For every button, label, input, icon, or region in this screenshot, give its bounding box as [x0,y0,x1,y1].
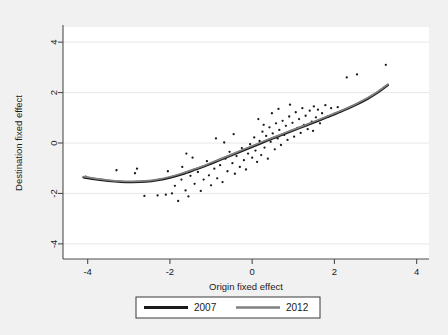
data-point [288,115,290,117]
data-point [134,172,136,174]
data-point [239,166,241,168]
data-point [263,146,265,148]
legend-label-2012: 2012 [286,302,309,313]
data-point [309,110,311,112]
data-point [234,173,236,175]
data-point [319,122,321,124]
data-point [300,132,302,134]
data-point [247,152,249,154]
data-point [171,192,173,194]
data-point [256,161,258,163]
data-point [312,130,314,132]
data-point [317,109,319,111]
data-point [301,107,303,109]
data-point [193,183,195,185]
data-point [385,64,387,66]
data-point [156,194,158,196]
x-tick-label: 0 [250,266,255,277]
data-point [346,76,348,78]
y-tick-label: -2 [48,189,59,197]
data-point [226,170,228,172]
data-point [274,148,276,150]
data-point [219,164,221,166]
data-point [245,168,247,170]
data-point [143,195,145,197]
data-point [177,200,179,202]
data-point [231,162,233,164]
x-tick-label: 4 [414,266,419,277]
y-axis-title: Destination fixed effect [13,95,24,191]
data-point [278,129,280,131]
data-point [253,136,255,138]
data-point [191,156,193,158]
data-point [263,124,265,126]
x-tick-label: -2 [166,266,174,277]
data-point [337,106,339,108]
data-point [115,169,117,171]
data-point [356,73,358,75]
data-point [187,195,189,197]
data-point [315,116,317,118]
data-point [180,178,182,180]
data-point [228,151,230,153]
y-tick-label: 2 [48,90,59,95]
data-point [280,144,282,146]
data-point [295,111,297,113]
y-tick-label: 0 [48,140,59,145]
data-point [208,174,210,176]
data-point [281,120,283,122]
data-point [307,128,309,130]
data-point [215,137,217,139]
data-point [202,178,204,180]
data-point [210,184,212,186]
data-point [277,108,279,110]
data-point [304,115,306,117]
data-point [221,181,223,183]
chart-legend: 20072012 [136,297,320,318]
data-point [223,141,225,143]
data-point [257,118,259,120]
data-point [233,133,235,135]
data-point [185,152,187,154]
data-point [321,112,323,114]
data-point [167,170,169,172]
data-point [265,135,267,137]
data-point [184,189,186,191]
data-point [330,107,332,109]
data-point [174,185,176,187]
y-tick-label: 4 [48,39,59,44]
data-point [268,126,270,128]
data-point [324,104,326,106]
data-point [251,156,253,158]
data-point [243,159,245,161]
data-point [206,160,208,162]
data-point [241,147,243,149]
data-point [286,139,288,141]
data-point [270,141,272,143]
data-point [298,118,300,120]
data-point [165,194,167,196]
data-point [254,149,256,151]
data-point [313,105,315,107]
data-point [197,171,199,173]
chart-figure: -4-2024 -4-2024 Origin fixed effect Dest… [0,0,448,335]
data-point [261,131,263,133]
data-point [289,104,291,106]
data-point [136,168,138,170]
scatter-plot: -4-2024 -4-2024 Origin fixed effect Dest… [0,0,448,335]
data-point [275,122,277,124]
data-point [200,190,202,192]
x-tick-label: -4 [83,266,91,277]
data-point [291,122,293,124]
data-point [249,143,251,145]
data-point [267,157,269,159]
legend-label-2007: 2007 [194,302,217,313]
data-point [285,125,287,127]
data-point [213,168,215,170]
x-axis-title: Origin fixed effect [209,281,283,292]
data-point [216,177,218,179]
x-tick-label: 2 [332,266,337,277]
data-point [271,112,273,114]
data-point [260,154,262,156]
data-point [235,155,237,157]
